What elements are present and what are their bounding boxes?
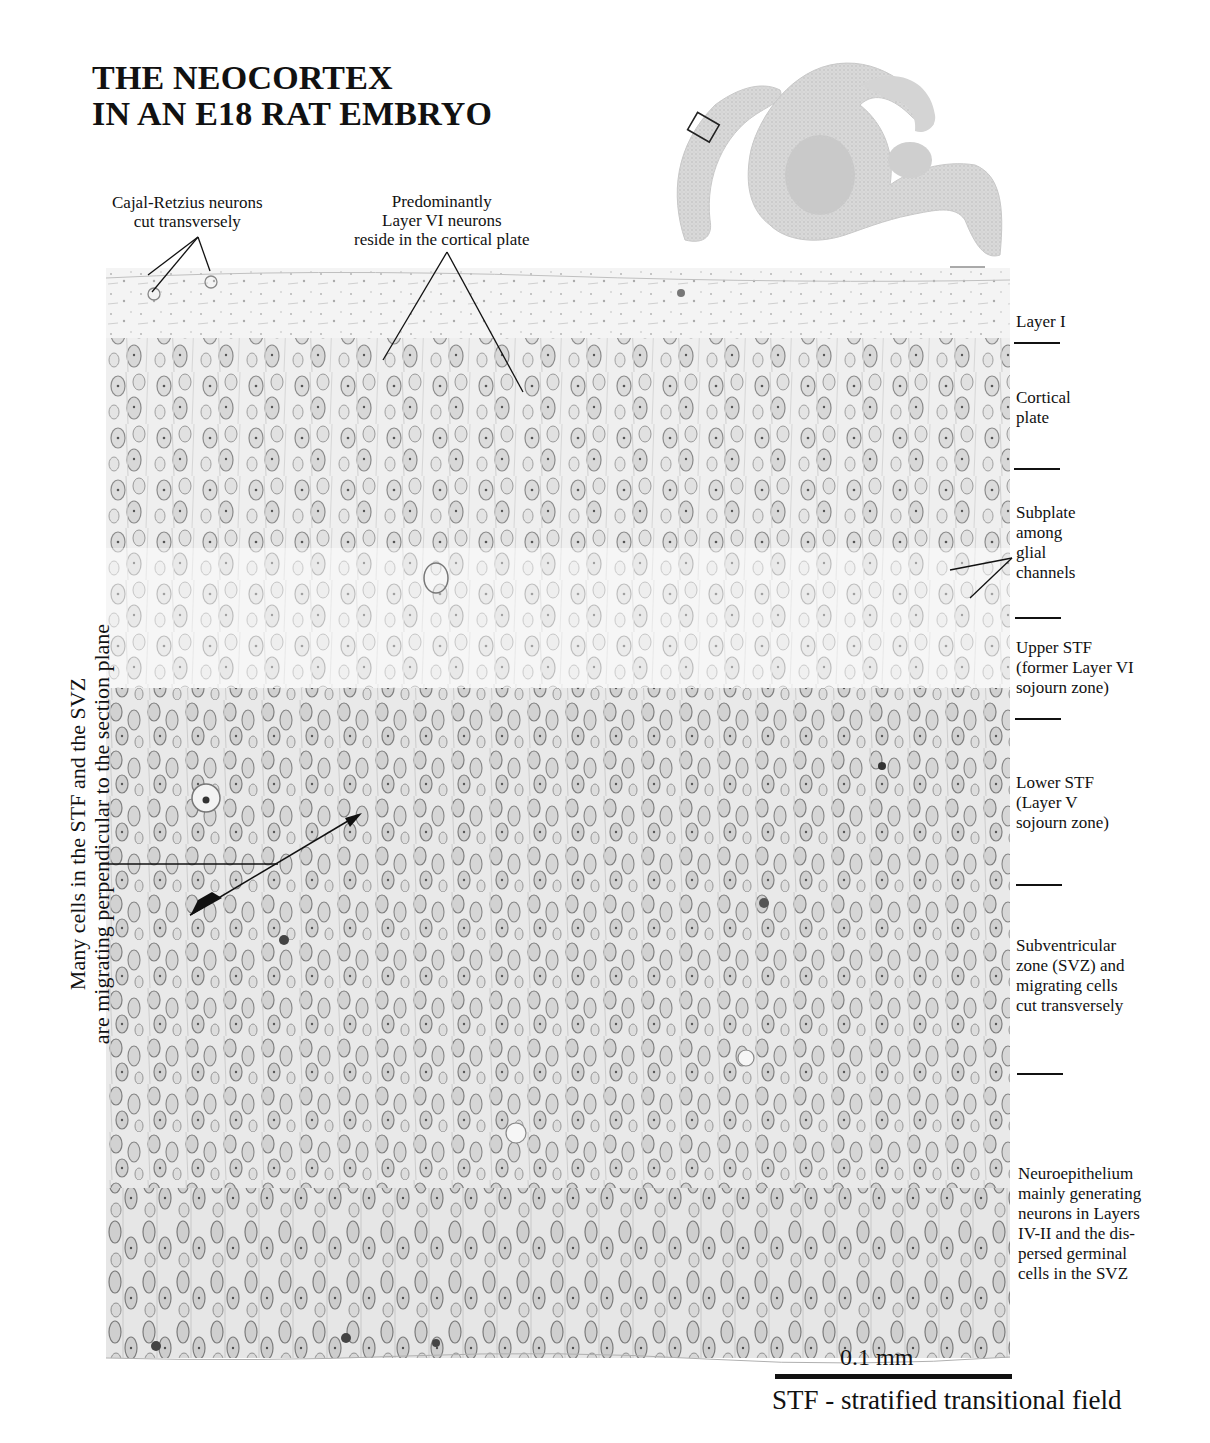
layer-divider xyxy=(1014,468,1060,470)
layer-divider xyxy=(1015,617,1061,619)
layer-label-neuroepithelium: Neuroepithelium mainly generating neuron… xyxy=(1018,1164,1141,1284)
scale-bar xyxy=(775,1374,1012,1379)
layer-divider xyxy=(1017,1073,1063,1075)
migration-side-note: Many cells in the STF and the SVZ are mi… xyxy=(66,574,114,1094)
layer-label-upper-stf: Upper STF (former Layer VI sojourn zone) xyxy=(1016,638,1134,698)
micrograph-image xyxy=(106,268,1010,1368)
title-line-1: THE NEOCORTEX xyxy=(92,60,492,96)
layer-divider xyxy=(1016,884,1062,886)
scale-bar-label: 0.1 mm xyxy=(840,1344,913,1370)
figure-title: THE NEOCORTEX IN AN E18 RAT EMBRYO xyxy=(92,60,492,132)
layer-label-layer-i: Layer I xyxy=(1016,312,1066,332)
layer-label-subplate: Subplate among glial channels xyxy=(1016,503,1076,583)
stf-definition: STF - stratified transitional field xyxy=(772,1385,1121,1415)
brain-section-inset xyxy=(655,45,1015,275)
layer-label-lower-stf: Lower STF (Layer V sojourn zone) xyxy=(1016,773,1109,833)
layer-divider xyxy=(1014,342,1060,344)
layer-label-svz: Subventricular zone (SVZ) and migrating … xyxy=(1016,936,1125,1016)
callout-cajal-retzius: Cajal-Retzius neurons cut transversely xyxy=(112,193,263,231)
callout-layer-vi: Predominantly Layer VI neurons reside in… xyxy=(354,192,530,249)
brain-section-overview-icon xyxy=(655,45,1015,275)
layer-label-cortical-plate: Cortical plate xyxy=(1016,388,1071,428)
neocortex-micrograph xyxy=(106,268,1010,1368)
layer-divider xyxy=(1015,718,1061,720)
title-line-2: IN AN E18 RAT EMBRYO xyxy=(92,96,492,132)
